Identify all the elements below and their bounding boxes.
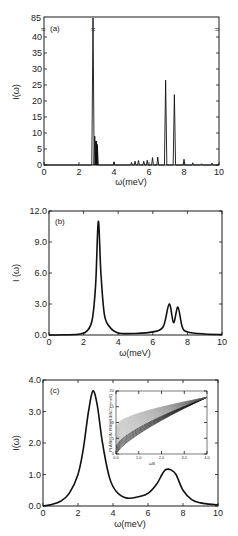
panel-b-xtick-label: 2	[81, 337, 86, 347]
inset-xtick-label: 4.0	[204, 455, 210, 460]
panel-b-xtick-label: 4	[116, 337, 121, 347]
inset-xtick-label: 0.0	[113, 455, 119, 460]
panel-b-curve	[49, 221, 222, 335]
axis-break-left: ≈	[41, 25, 46, 34]
inset-xtick-label: 3.0	[181, 455, 187, 460]
panel-a-ytick-label: 0	[37, 160, 42, 170]
panel-b-xlabel: ω(meV)	[119, 348, 151, 358]
panel-b-frame	[49, 211, 222, 335]
panel-b-xtick-label: 10	[217, 337, 227, 347]
panel-a-frame	[44, 17, 219, 165]
panel-a-ylabel: I(ω)	[11, 84, 21, 100]
panel-c-ylabel: I(ω)	[11, 435, 21, 451]
panel-a-xtick-label: 0	[41, 167, 46, 177]
panel-b-ytick-label: 0.0	[34, 330, 47, 340]
panel-b-xtick-label: 6	[150, 337, 155, 347]
panel-a-xtick-label: 8	[181, 167, 186, 177]
panel-a-ytick-label: 15	[32, 112, 42, 122]
panel-a-xtick-label: 2	[76, 167, 81, 177]
panel-a: 02468100510152025303540 (a) 85 ≈ ≈ ≈ ω(m…	[11, 13, 224, 187]
inset-ylabel: PLASMON FREQUENCY (meV)	[108, 393, 113, 451]
inset-ytick-label: 20	[110, 388, 115, 393]
panel-c-xtick-label: 0	[40, 508, 45, 518]
panel-b-ytick-label: 9.0	[34, 237, 47, 247]
panel-a-ticks: 02468100510152025303540	[32, 32, 224, 177]
axis-break-right: ≈	[215, 25, 220, 34]
panel-c-xtick-label: 2	[75, 508, 80, 518]
inset-xlabel: ωB	[149, 461, 155, 466]
panel-c-xlabel: ω(meV)	[114, 519, 146, 529]
inset-xtick-label: 1.0	[136, 455, 142, 460]
panel-a-ytick-label: 30	[32, 64, 42, 74]
panel-c-xtick-label: 8	[180, 508, 185, 518]
inset-plot: 0.01.02.03.04.005101520 PLASMON FREQUENC…	[108, 388, 211, 466]
panel-b-xtick-label: 0	[46, 337, 51, 347]
panel-c-ytick-label: 1.0	[28, 470, 41, 480]
panel-a-top-label: 85	[31, 13, 41, 23]
inset-xtick-label: 2.0	[159, 455, 165, 460]
panel-c-xtick-label: 4	[110, 508, 115, 518]
panel-a-xlabel: ω(meV)	[115, 177, 147, 187]
panel-c-xtick-label: 6	[145, 508, 150, 518]
panel-b-xtick-label: 8	[185, 337, 190, 347]
panel-c-ytick-label: 4.0	[28, 375, 41, 385]
panel-a-ytick-label: 25	[32, 80, 42, 90]
panel-c-ytick-label: 0.0	[28, 501, 41, 511]
panel-c-ytick-label: 3.0	[28, 407, 41, 417]
panel-b-ytick-label: 6.0	[34, 268, 47, 278]
panel-b-ytick-label: 12.0	[29, 206, 47, 216]
panel-c: 02468100.01.02.03.04.0 (c) ω(meV) I(ω) 0…	[11, 375, 223, 529]
panel-a-tag: (a)	[50, 24, 60, 33]
panel-a-xtick-label: 6	[146, 167, 151, 177]
panel-b-ytick-label: 3.0	[34, 299, 47, 309]
panel-a-curve	[44, 18, 219, 165]
panel-a-xtick-label: 10	[214, 167, 224, 177]
panel-a-ytick-label: 20	[32, 96, 42, 106]
panel-a-ytick-label: 35	[32, 48, 42, 58]
panel-b-ylabel: I (ω)	[11, 264, 21, 282]
panel-b-ticks: 02468100.03.06.09.012.0	[29, 206, 227, 347]
panel-a-ytick-label: 10	[32, 128, 42, 138]
axis-break-mid: ≈	[91, 25, 96, 34]
panel-b-tag: (b)	[55, 217, 65, 226]
panel-c-ytick-label: 2.0	[28, 438, 41, 448]
panel-b: 02468100.03.06.09.012.0 (b) ω(meV) I (ω)	[11, 206, 227, 358]
figure: 02468100510152025303540 (a) 85 ≈ ≈ ≈ ω(m…	[0, 0, 238, 536]
panel-a-ytick-label: 5	[37, 144, 42, 154]
panel-c-tag: (c)	[50, 386, 60, 395]
panel-c-xtick-label: 10	[213, 508, 223, 518]
panel-a-xtick-label: 4	[111, 167, 116, 177]
